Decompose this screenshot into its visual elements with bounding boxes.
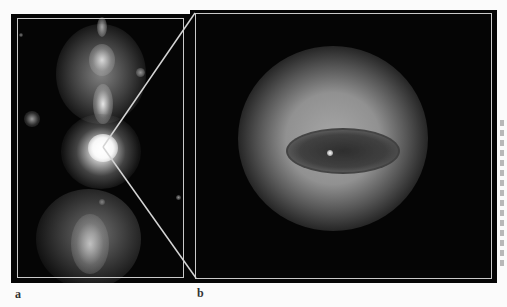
connector-line-top	[103, 13, 195, 147]
panel-label-b: b	[197, 286, 204, 301]
cropped-margin-text	[500, 120, 504, 270]
panel-label-a: a	[15, 287, 21, 302]
zoom-connector	[0, 0, 507, 307]
connector-line-bottom	[103, 147, 196, 278]
